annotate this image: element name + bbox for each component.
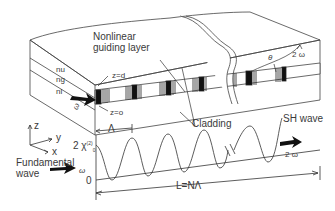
omega-fund-label: ω [79, 165, 85, 176]
axes-icon [28, 125, 52, 154]
chi-sub: 0 [93, 147, 96, 153]
z-0-label: z=o [110, 107, 123, 118]
axis-z-label: z [34, 120, 39, 131]
theta-label: θ [268, 52, 272, 63]
output-arrow [280, 136, 302, 148]
lambda-label: Λ [108, 123, 115, 134]
axis-x-label: x [52, 146, 57, 157]
z-d-label: z=d [112, 70, 125, 81]
chi-label: 2 χ(2)0 [73, 138, 96, 156]
n-guide-label: ng [56, 74, 65, 85]
axis-y-label: y [56, 132, 61, 143]
sh-wave-label: SH wave [283, 113, 323, 124]
sh-wave-curve [96, 118, 282, 180]
label-line: guiding layer [93, 42, 150, 53]
zero-label: 0 [86, 175, 92, 186]
n-lower-label: nl [56, 86, 62, 97]
nonlinear-layer-label: Nonlinear guiding layer [93, 31, 150, 53]
fundamental-label: Fundamental wave [16, 157, 74, 179]
chi-sup: (2) [87, 140, 93, 146]
chi-text: 2 χ [73, 140, 87, 151]
length-label: L=NΛ [176, 180, 201, 191]
label-line: Fundamental [16, 157, 74, 168]
label-line: Nonlinear [93, 31, 150, 42]
label-line: wave [16, 168, 74, 179]
two-omega-top-label: 2 ω [292, 49, 305, 60]
slab-left-face [30, 40, 95, 135]
two-omega-out-label: 2 ω [285, 149, 298, 160]
cladding-label: Cladding [192, 118, 231, 129]
waveguide-diagram [0, 0, 335, 211]
